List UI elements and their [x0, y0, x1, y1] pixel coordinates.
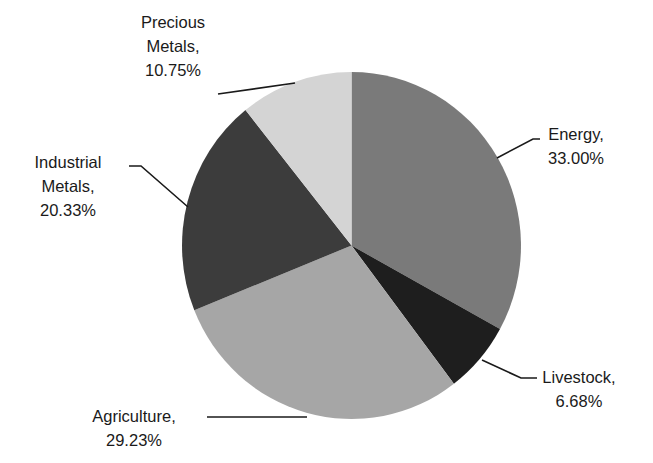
label-precious-line2: Metals, — [128, 34, 218, 58]
label-agriculture-line1: Agriculture, — [80, 404, 188, 428]
label-livestock-line1: Livestock, — [538, 365, 620, 389]
label-energy-line1: Energy, — [540, 122, 612, 146]
label-energy-line2: 33.00% — [540, 146, 612, 170]
label-livestock-line2: 6.68% — [538, 389, 620, 413]
label-precious-line3: 10.75% — [128, 58, 218, 82]
label-industrial-line3: 20.33% — [20, 198, 116, 222]
label-energy: Energy, 33.00% — [540, 122, 612, 170]
label-precious-metals: Precious Metals, 10.75% — [128, 10, 218, 82]
leader-line-livestock — [482, 360, 537, 378]
label-industrial-metals: Industrial Metals, 20.33% — [20, 150, 116, 222]
label-precious-line1: Precious — [128, 10, 218, 34]
label-livestock: Livestock, 6.68% — [538, 365, 620, 413]
label-agriculture: Agriculture, 29.23% — [80, 404, 188, 452]
leader-line-energy — [497, 139, 540, 158]
leader-line-industrial-metals — [129, 166, 188, 207]
label-agriculture-line2: 29.23% — [80, 428, 188, 452]
label-industrial-line2: Metals, — [20, 174, 116, 198]
label-industrial-line1: Industrial — [20, 150, 116, 174]
